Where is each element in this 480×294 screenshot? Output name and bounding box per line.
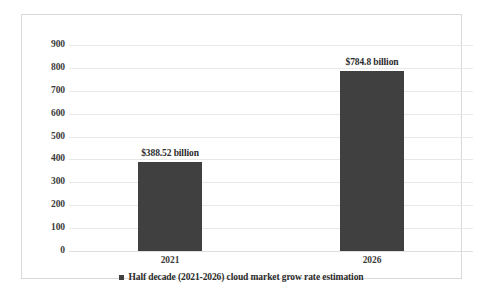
chart-frame: 9008007006005004003002001000 $388.52 bil… — [21, 14, 462, 279]
y-axis-tick-label: 700 — [35, 86, 65, 96]
chart-legend: Half decade (2021-2026) cloud market gro… — [22, 273, 461, 283]
x-axis-tick-label: 2021 — [130, 256, 210, 266]
y-axis-tick-label: 500 — [35, 132, 65, 142]
plot-area: $388.52 billion$784.8 billion — [69, 45, 473, 251]
gridline — [69, 45, 473, 46]
y-axis-tick-label: 200 — [35, 200, 65, 210]
legend-swatch-icon — [119, 275, 124, 280]
legend-label: Half decade (2021-2026) cloud market gro… — [128, 273, 363, 283]
gridline — [69, 137, 473, 138]
y-axis-tick-label: 300 — [35, 178, 65, 188]
gridline — [69, 228, 473, 229]
y-axis-tick-label: 100 — [35, 223, 65, 233]
y-axis-tick-label: 800 — [35, 63, 65, 73]
gridline — [69, 114, 473, 115]
gridline — [69, 182, 473, 183]
gridline — [69, 159, 473, 160]
y-axis: 9008007006005004003002001000 — [31, 45, 65, 251]
x-axis-tick-label: 2026 — [332, 256, 412, 266]
gridline — [69, 68, 473, 69]
bar-2026[interactable] — [340, 71, 404, 251]
y-axis-tick-label: 600 — [35, 109, 65, 119]
gridline — [69, 205, 473, 206]
bar-value-label: $784.8 billion — [312, 58, 432, 68]
y-axis-tick-label: 400 — [35, 155, 65, 165]
y-axis-tick-label: 900 — [35, 40, 65, 50]
bar-value-label: $388.52 billion — [110, 149, 230, 159]
y-axis-tick-label: 0 — [35, 246, 65, 256]
gridline — [69, 91, 473, 92]
gridline — [69, 251, 473, 252]
bar-2021[interactable] — [138, 162, 202, 251]
